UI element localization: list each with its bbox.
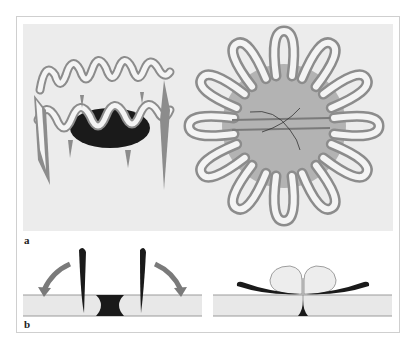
star-illustration [189,31,379,221]
figure-artwork [0,0,412,349]
panel-b-right-illustration [213,266,392,316]
ring-illustration [34,60,170,190]
panel-a-label: a [24,234,30,246]
panel-b-label: b [24,318,30,330]
panel-b-left-illustration [23,248,202,316]
